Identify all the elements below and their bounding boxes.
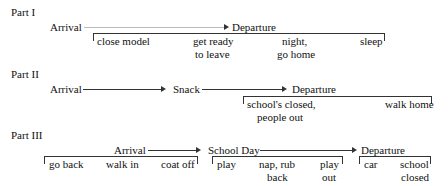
- part-3-stage-school-day: School Day: [208, 144, 260, 156]
- step: sleep: [360, 35, 383, 47]
- part-1-stage-arrival: Arrival: [50, 21, 82, 33]
- step: school: [400, 158, 429, 170]
- step: closed: [401, 171, 429, 183]
- step: walk in: [106, 158, 139, 170]
- part-3-stage-arrival: Arrival: [114, 144, 146, 156]
- step: school's closed,: [247, 98, 316, 110]
- step: nap, rub: [259, 158, 295, 170]
- arrow-head-icon: [282, 86, 287, 92]
- step: coat off: [161, 158, 195, 170]
- step: car: [364, 158, 377, 170]
- arrow-line: [148, 150, 198, 151]
- arrow-line: [202, 89, 283, 90]
- part-1-title: Part I: [11, 6, 35, 18]
- step: get ready: [193, 35, 234, 47]
- arrow-head-icon: [352, 147, 357, 153]
- arrow-line: [260, 150, 354, 151]
- step: people out: [257, 111, 303, 123]
- step: close model: [97, 35, 150, 47]
- part-1-stage-departure: Departure: [232, 21, 276, 33]
- step: out: [322, 171, 336, 183]
- arrow-line: [84, 27, 224, 28]
- part-2-stage-arrival: Arrival: [50, 83, 82, 95]
- part-3-title: Part III: [11, 129, 42, 141]
- step: play: [320, 158, 339, 170]
- arrow-head-icon: [224, 24, 229, 30]
- arrow-head-icon: [196, 147, 201, 153]
- step: walk home: [385, 98, 434, 110]
- step: to leave: [195, 48, 230, 60]
- part-2-stage-departure: Departure: [292, 83, 336, 95]
- part-2-title: Part II: [11, 68, 39, 80]
- arrow-head-icon: [161, 86, 166, 92]
- part-2-stage-snack: Snack: [173, 83, 200, 95]
- step: back: [267, 171, 288, 183]
- part-3-stage-departure: Departure: [361, 144, 405, 156]
- arrow-line: [83, 89, 163, 90]
- step: play: [217, 158, 236, 170]
- step: go back: [49, 158, 84, 170]
- step: night,: [282, 35, 307, 47]
- step: go home: [277, 48, 315, 60]
- script-diagram: Part I Arrival Departure close model get…: [0, 0, 448, 186]
